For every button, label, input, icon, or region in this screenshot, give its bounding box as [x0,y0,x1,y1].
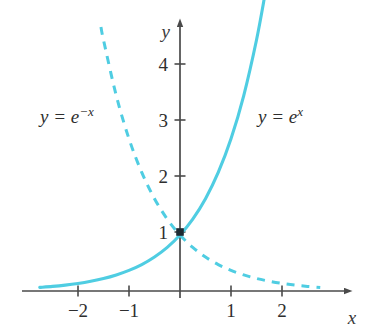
graph-canvas: −2 −1 1 2 1 2 3 4 y x y = e−x y = ex [0,0,368,333]
curve-label-right-exponent: x [296,104,303,119]
x-axis-label: x [347,307,357,328]
y-tick-label-2: 2 [159,166,169,187]
curve-label-left: y = e−x [38,104,94,127]
curve-label-right-lhs: y = e [256,106,297,127]
curve-label-left-exponent: −x [79,104,94,119]
exponential-functions-graph: −2 −1 1 2 1 2 3 4 y x y = e−x y = ex [0,0,368,333]
y-axis [175,26,186,298]
x-tick-label-2: 2 [277,300,287,321]
x-tick-label--1: −1 [119,300,139,321]
curve-label-left-lhs: y = e [38,106,79,127]
y-tick-label-4: 4 [159,54,169,75]
svg-text:y = e−x: y = e−x [38,104,94,127]
x-axis [22,286,345,297]
x-tick-label--2: −2 [68,300,88,321]
svg-text:y = ex: y = ex [256,104,303,127]
curve-y-equals-e-to-the-x [40,0,265,287]
curve-label-right: y = ex [256,104,303,127]
y-tick-label-1: 1 [159,222,169,243]
curve-y-equals-e-to-the-minus-x [101,27,320,287]
intersection-point-marker [176,228,184,236]
x-tick-label-1: 1 [226,300,236,321]
y-axis-label: y [160,21,171,42]
y-tick-label-3: 3 [159,110,169,131]
